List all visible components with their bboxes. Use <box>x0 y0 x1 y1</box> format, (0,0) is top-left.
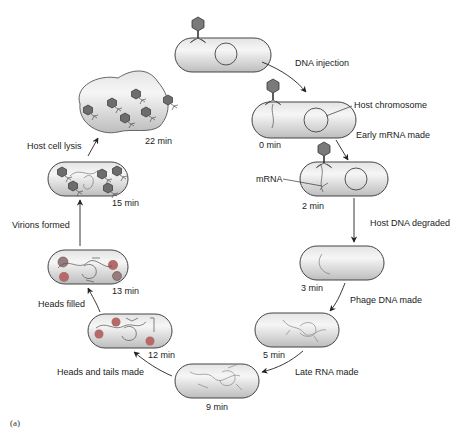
lytic-cycle-diagram: DNA injection Early mRNA made Host DNA d… <box>0 0 462 430</box>
arrow-heads-filled <box>88 288 100 312</box>
cell-22min-lysed <box>79 71 178 133</box>
time-label-0min: 0 min <box>259 141 281 150</box>
cell-9min <box>175 364 259 398</box>
arrow-host-cell-lysis <box>88 138 98 156</box>
cell-15min <box>48 162 128 198</box>
step-label-dna-injection: DNA injection <box>295 59 349 68</box>
callout-mrna: mRNA <box>256 175 283 184</box>
step-label-late-rna-made: Late RNA made <box>295 368 359 377</box>
cell-0min <box>252 79 356 138</box>
time-label-9min: 9 min <box>206 403 228 412</box>
step-label-phage-dna-made: Phage DNA made <box>350 296 422 305</box>
step-label-virions-formed: Virions formed <box>12 221 70 230</box>
step-label-heads-filled: Heads filled <box>38 300 85 309</box>
phage-icon <box>265 79 281 105</box>
cell-3min <box>300 246 384 280</box>
cell-12min <box>88 314 172 348</box>
arrow-early-mrna <box>336 140 348 160</box>
step-label-host-dna-degraded: Host DNA degraded <box>370 219 450 228</box>
cell-5min <box>255 313 339 347</box>
arrow-phage-dna-made <box>330 283 345 311</box>
panel-label: (a) <box>10 418 20 428</box>
cell-2min <box>283 142 388 196</box>
time-label-15min: 15 min <box>112 199 139 208</box>
step-label-heads-tails-made: Heads and tails made <box>57 368 144 377</box>
time-label-22min: 22 min <box>145 137 172 146</box>
time-label-13min: 13 min <box>112 287 139 296</box>
cell-13min <box>48 250 128 284</box>
step-label-host-cell-lysis: Host cell lysis <box>27 142 82 151</box>
time-label-12min: 12 min <box>148 351 175 360</box>
time-label-5min: 5 min <box>263 351 285 360</box>
time-label-2min: 2 min <box>302 202 324 211</box>
step-label-early-mrna: Early mRNA made <box>356 131 430 140</box>
time-label-3min: 3 min <box>301 284 323 293</box>
diagram-canvas <box>0 0 462 430</box>
callout-host-chromosome: Host chromosome <box>354 101 427 110</box>
cell-attachment <box>175 17 271 72</box>
